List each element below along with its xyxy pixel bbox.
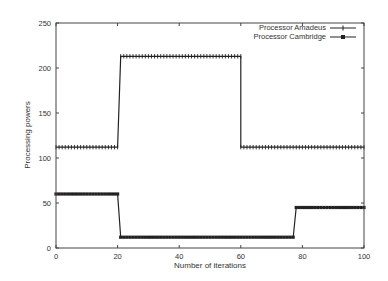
square-marker-icon [131, 236, 134, 239]
series-processor-cambridge [54, 192, 365, 238]
square-marker-icon [301, 206, 304, 209]
square-marker-icon [181, 236, 184, 239]
square-marker-icon [282, 236, 285, 239]
square-marker-icon [190, 236, 193, 239]
square-marker-icon [104, 192, 107, 195]
legend-label-amadeus: Processor Amadeus [259, 23, 326, 32]
square-marker-icon [261, 236, 264, 239]
square-marker-icon [138, 236, 141, 239]
square-marker-icon [110, 192, 113, 195]
square-marker-icon [202, 236, 205, 239]
square-marker-icon [248, 236, 251, 239]
square-marker-icon [329, 206, 332, 209]
x-tick-label: 100 [358, 252, 371, 261]
square-marker-icon [147, 236, 150, 239]
square-marker-icon [322, 206, 325, 209]
x-tick-label: 60 [237, 252, 245, 261]
chart-container: 020406080100050100150200250 Number of it… [0, 0, 388, 281]
square-marker-icon [175, 236, 178, 239]
square-marker-icon [236, 236, 239, 239]
square-marker-icon [258, 236, 261, 239]
square-marker-icon [162, 236, 165, 239]
square-marker-icon [338, 206, 341, 209]
square-marker-icon [165, 236, 168, 239]
x-axis-label: Number of iterations [174, 261, 246, 270]
square-marker-icon [292, 236, 295, 239]
y-tick-label: 250 [38, 19, 51, 28]
y-tick-label: 0 [47, 244, 51, 253]
y-tick-label: 150 [38, 109, 51, 118]
square-marker-icon [76, 192, 79, 195]
square-marker-icon [107, 192, 110, 195]
square-marker-icon [94, 192, 97, 195]
square-marker-icon [359, 206, 362, 209]
square-marker-icon [79, 192, 82, 195]
square-marker-icon [113, 192, 116, 195]
legend: Processor Amadeus Processor Cambridge [253, 23, 356, 41]
square-marker-icon [273, 236, 276, 239]
square-marker-icon [187, 236, 190, 239]
square-marker-icon [193, 236, 196, 239]
square-marker-icon [230, 236, 233, 239]
series-line [56, 56, 364, 147]
square-marker-icon [73, 192, 76, 195]
square-marker-icon [319, 206, 322, 209]
axis-ticks: 020406080100050100150200250 [38, 19, 370, 262]
square-marker-icon [347, 206, 350, 209]
square-marker-icon [171, 236, 174, 239]
x-tick-label: 0 [54, 252, 58, 261]
square-marker-icon [196, 236, 199, 239]
square-marker-icon [344, 206, 347, 209]
square-marker-icon [335, 206, 338, 209]
square-marker-icon [205, 236, 208, 239]
square-marker-icon [310, 206, 313, 209]
square-marker-icon [82, 192, 85, 195]
square-marker-icon [276, 236, 279, 239]
y-tick-label: 100 [38, 154, 51, 163]
square-marker-icon [255, 236, 258, 239]
square-marker-icon [215, 236, 218, 239]
square-marker-icon [178, 236, 181, 239]
square-marker-icon [57, 192, 60, 195]
square-marker-icon [270, 236, 273, 239]
series-line [56, 194, 364, 237]
square-marker-icon [70, 192, 73, 195]
square-marker-icon [218, 236, 221, 239]
square-marker-icon [144, 236, 147, 239]
square-marker-icon [316, 206, 319, 209]
line-chart: 020406080100050100150200250 Number of it… [0, 0, 388, 281]
series-processor-amadeus [56, 54, 364, 149]
square-marker-icon [153, 236, 156, 239]
square-marker-icon [61, 192, 64, 195]
square-marker-icon [98, 192, 101, 195]
square-marker-icon [199, 236, 202, 239]
square-marker-icon [239, 236, 242, 239]
y-tick-label: 200 [38, 64, 51, 73]
square-marker-icon [233, 236, 236, 239]
square-marker-icon [122, 236, 125, 239]
square-marker-icon [85, 192, 88, 195]
legend-label-cambridge: Processor Cambridge [253, 32, 326, 41]
square-marker-icon [134, 236, 137, 239]
square-marker-icon [184, 236, 187, 239]
square-marker-icon [350, 206, 353, 209]
square-marker-icon [267, 236, 270, 239]
square-marker-icon [295, 206, 298, 209]
square-marker-icon [307, 206, 310, 209]
square-marker-icon [141, 236, 144, 239]
x-tick-label: 40 [175, 252, 183, 261]
square-marker-icon [67, 192, 70, 195]
square-marker-icon [208, 236, 211, 239]
square-marker-icon [125, 236, 128, 239]
square-marker-icon [325, 206, 328, 209]
square-marker-icon [119, 236, 122, 239]
square-marker-icon [168, 236, 171, 239]
square-marker-icon [88, 192, 91, 195]
legend-square-marker-icon [341, 35, 345, 39]
x-tick-label: 20 [113, 252, 121, 261]
square-marker-icon [128, 236, 131, 239]
square-marker-icon [332, 206, 335, 209]
square-marker-icon [91, 192, 94, 195]
square-marker-icon [242, 236, 245, 239]
square-marker-icon [159, 236, 162, 239]
